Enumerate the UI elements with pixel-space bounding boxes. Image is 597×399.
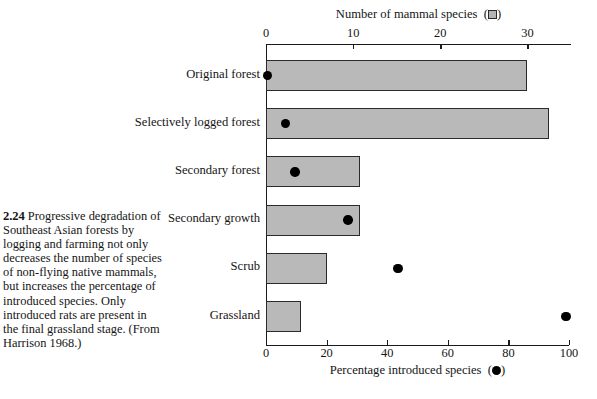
top-axis-tick-label: 10	[333, 26, 373, 41]
data-point-scrub	[393, 264, 403, 274]
category-label-grassland: Grassland	[50, 308, 260, 323]
top-axis-tick-label: 0	[246, 26, 286, 41]
category-label-secondary-growth: Secondary growth	[50, 211, 260, 226]
bar-scrub	[266, 253, 327, 284]
bottom-axis-tick	[327, 340, 328, 345]
category-label-secondary-forest: Secondary forest	[50, 163, 260, 178]
data-point-secondary-growth	[343, 215, 353, 225]
bottom-axis-title-text: Percentage introduced species	[330, 363, 482, 377]
bottom-axis-tick	[569, 340, 570, 345]
top-axis-tick	[440, 44, 441, 49]
top-axis-tick-label: 20	[420, 26, 460, 41]
gray-square-legend-icon	[488, 10, 497, 19]
data-point-secondary-forest	[290, 167, 300, 177]
bottom-axis-tick-label: 60	[428, 346, 468, 361]
category-label-original-forest: Original forest	[50, 67, 260, 82]
top-axis-tick	[353, 44, 354, 49]
bottom-axis-tick-label: 80	[488, 346, 528, 361]
bar-grassland	[266, 301, 301, 332]
chart-plot-area: Number of mammal species () Percentage i…	[0, 0, 597, 399]
figure-container: 2.24 Progressive degradation of Southeas…	[0, 0, 597, 399]
top-axis-tick-label: 30	[507, 26, 547, 41]
bottom-axis-tick	[448, 340, 449, 345]
bottom-axis-tick-label: 100	[549, 346, 589, 361]
bar-selectively-logged-forest	[266, 108, 549, 139]
top-axis-tick	[527, 44, 528, 49]
bottom-axis-tick-label: 0	[246, 346, 286, 361]
data-point-grassland	[561, 312, 571, 322]
black-circle-legend-icon	[492, 366, 501, 375]
bottom-axis-tick	[387, 340, 388, 345]
bar-secondary-forest	[266, 156, 360, 187]
bottom-axis-tick	[266, 340, 267, 345]
top-axis-line	[266, 44, 571, 45]
top-axis-title: Number of mammal species ()	[266, 7, 571, 22]
bottom-axis-tick-label: 20	[307, 346, 347, 361]
bottom-axis-title: Percentage introduced species ()	[266, 363, 569, 378]
category-label-selectively-logged-forest: Selectively logged forest	[50, 115, 260, 130]
axis-paren-open: (	[481, 7, 488, 21]
top-axis-tick	[266, 44, 267, 49]
top-axis-title-text: Number of mammal species	[336, 7, 478, 21]
axis-paren-close-2: )	[501, 363, 505, 377]
axis-paren-open-2: (	[485, 363, 492, 377]
category-label-scrub: Scrub	[50, 259, 260, 274]
bottom-axis-tick	[508, 340, 509, 345]
axis-paren-close: )	[497, 7, 501, 21]
bottom-axis-tick-label: 40	[367, 346, 407, 361]
bar-original-forest	[266, 60, 527, 91]
